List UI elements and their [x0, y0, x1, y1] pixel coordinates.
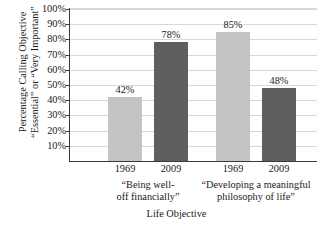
group-label-line: “Developing a meaningful: [201, 179, 310, 191]
x-axis-tick-label: 1969: [208, 164, 258, 174]
bar-value-label: 85%: [224, 20, 243, 30]
x-axis-tick-labels: 1969200919692009: [70, 164, 317, 177]
y-axis-title-line-1: Percentage Calling Objective: [17, 12, 29, 133]
x-axis-tick-label: 2009: [254, 164, 304, 174]
y-axis-tick-label: 60%: [30, 65, 66, 75]
bar-value-label: 48%: [270, 76, 289, 86]
y-axis-tick-labels: 100%90%80%70%60%50%40%30%20%10%: [30, 9, 66, 161]
bar: 78%: [154, 42, 188, 161]
group-label-line: philosophy of life”: [201, 191, 310, 203]
group-label-line: off financially”: [117, 191, 180, 203]
group-label-line: “Being well-: [117, 179, 180, 191]
bar: 42%: [108, 97, 142, 161]
y-axis-tick-label: 30%: [30, 110, 66, 120]
y-axis-tick-label: 10%: [30, 141, 66, 151]
bar: 85%: [216, 32, 250, 161]
group-labels: “Being well-off financially”“Developing …: [70, 179, 317, 207]
group-label: “Being well-off financially”: [117, 179, 180, 203]
y-axis-tick-label: 70%: [30, 49, 66, 59]
bar-value-label: 78%: [162, 30, 181, 40]
y-axis-tick-label: 80%: [30, 34, 66, 44]
x-axis-tick-label: 2009: [146, 164, 196, 174]
bars-layer: 42%78%85%48%: [70, 9, 317, 161]
y-axis-tick-label: 90%: [30, 19, 66, 29]
y-axis-tick-label: 100%: [30, 4, 66, 14]
bar: 48%: [262, 88, 296, 161]
x-axis-title: Life Objective: [0, 209, 325, 219]
bar-chart-figure: Percentage Calling Objective “Essential”…: [0, 0, 325, 228]
bar-value-label: 42%: [116, 85, 135, 95]
y-axis-tick-label: 20%: [30, 125, 66, 135]
x-axis-title-text: Life Objective: [147, 209, 207, 219]
group-label: “Developing a meaningfulphilosophy of li…: [201, 179, 310, 203]
y-axis-tick-label: 40%: [30, 95, 66, 105]
x-axis-tick-label: 1969: [100, 164, 150, 174]
y-axis-tick-label: 50%: [30, 80, 66, 90]
plot-area: 42%78%85%48%: [70, 9, 317, 161]
